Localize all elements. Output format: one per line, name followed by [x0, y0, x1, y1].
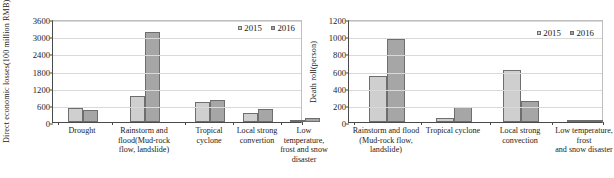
- y-axis-tick-label: 600: [37, 103, 50, 112]
- x-axis-tick-mark: [421, 122, 422, 125]
- gridline: [53, 73, 301, 74]
- x-axis-category-label-line: convection: [495, 136, 545, 146]
- bar-2016[interactable]: [454, 107, 472, 122]
- y-axis-tick-label: 1800: [33, 68, 50, 77]
- legend-item-2015[interactable]: 2015: [537, 28, 561, 38]
- bar-2016[interactable]: [83, 110, 98, 122]
- x-axis-tick-mark: [233, 122, 234, 125]
- bar-2015[interactable]: [436, 118, 454, 122]
- bar-2016[interactable]: [210, 100, 225, 122]
- y-axis-tick-mark: [346, 55, 349, 56]
- legend-item-2015[interactable]: 2015: [238, 23, 262, 33]
- gridline: [53, 38, 301, 39]
- x-axis-tick-mark: [58, 122, 59, 125]
- gridline: [349, 107, 602, 108]
- bar-2015[interactable]: [503, 70, 521, 122]
- x-axis-category-label: Tropical cyclone: [422, 126, 484, 136]
- y-axis-tick-label: 1200: [33, 85, 50, 94]
- y-axis-title-left: Direct economic losses (100 million RMB): [2, 20, 12, 123]
- legend-label-2016: 2016: [277, 23, 295, 33]
- plot-area-right: 2015 2016 020040060080010001200: [348, 20, 603, 123]
- x-axis-category-label: Rainstorm andflood(Mud-rockflow, landsli…: [113, 126, 175, 155]
- bar-2016[interactable]: [585, 120, 603, 122]
- legend-swatch-2016-icon: [271, 26, 275, 30]
- gridline: [349, 21, 602, 22]
- x-axis-tick-mark: [552, 122, 553, 125]
- y-axis-tick-label: 1200: [329, 17, 346, 26]
- bar-2016[interactable]: [145, 32, 160, 122]
- y-axis-tick-label: 2400: [33, 51, 50, 60]
- bar-2015[interactable]: [68, 108, 83, 122]
- y-axis-title-left-line2: (100 million RMB): [2, 0, 12, 65]
- y-axis-tick-mark: [50, 124, 53, 125]
- y-axis-tick-label: 3600: [33, 17, 50, 26]
- chart-panel-death-roll: Death roll(person) 2015 2016 02004006008…: [307, 0, 614, 178]
- legend-swatch-2016-icon: [570, 31, 574, 35]
- bar-2016[interactable]: [521, 101, 539, 122]
- gridline: [349, 38, 602, 39]
- y-axis-tick-label: 800: [333, 51, 346, 60]
- x-axis-category-label: Drought: [59, 126, 105, 136]
- x-axis-category-label-line: Tropical: [186, 126, 232, 136]
- y-axis-tick-mark: [346, 21, 349, 22]
- x-axis-tick-mark: [185, 122, 186, 125]
- bar-2016[interactable]: [387, 39, 405, 122]
- legend-item-2016[interactable]: 2016: [570, 28, 594, 38]
- legend-swatch-2015-icon: [537, 31, 541, 35]
- x-axis-category-label: Local strongconvection: [495, 126, 545, 145]
- y-axis-tick-label: 200: [333, 103, 346, 112]
- x-axis-category-label-line: Rainstorm and: [113, 126, 175, 136]
- gridline: [53, 55, 301, 56]
- gridline: [53, 107, 301, 108]
- y-axis-tick-mark: [346, 124, 349, 125]
- x-axis-category-label-line: flood(Mud-rock: [113, 136, 175, 146]
- y-axis-tick-label: 600: [333, 68, 346, 77]
- legend-swatch-2015-icon: [238, 26, 242, 30]
- y-axis-tick-mark: [346, 89, 349, 90]
- x-axis-tick-mark: [603, 122, 604, 125]
- x-axis-tick-mark: [112, 122, 113, 125]
- x-axis-category-label-line: Local strong: [232, 126, 282, 136]
- bar-2016[interactable]: [258, 109, 273, 122]
- x-axis-tick-mark: [354, 122, 355, 125]
- bar-2015[interactable]: [243, 113, 258, 122]
- legend-label-2016: 2016: [576, 28, 594, 38]
- y-axis-tick-mark: [346, 106, 349, 107]
- legend-item-2016[interactable]: 2016: [271, 23, 295, 33]
- bar-2015[interactable]: [195, 102, 210, 122]
- y-axis-title-right: Death roll(person): [309, 20, 319, 123]
- x-axis-tick-mark: [302, 122, 303, 125]
- gridline: [349, 73, 602, 74]
- bar-2015[interactable]: [567, 120, 585, 122]
- x-axis-category-label-line: convertion: [232, 136, 282, 146]
- gridline: [349, 90, 602, 91]
- x-axis-category-label: Rainstorm and flood(Mud-rock flow,landsl…: [352, 126, 420, 155]
- x-axis-tick-mark: [281, 122, 282, 125]
- y-axis-tick-label: 400: [333, 85, 346, 94]
- gridline: [349, 55, 602, 56]
- y-axis-tick-mark: [346, 72, 349, 73]
- x-axis-category-label-line: landslide): [352, 145, 420, 155]
- y-axis-title-left-line1: Direct economic losses: [2, 65, 12, 143]
- legend-label-2015: 2015: [244, 23, 262, 33]
- x-axis-category-label-line: Low temperature, frost: [551, 126, 614, 145]
- x-axis-tick-mark: [490, 122, 491, 125]
- x-axis-category-label-line: Tropical cyclone: [422, 126, 484, 136]
- x-axis-category-label: Tropicalcyclone: [186, 126, 232, 145]
- legend-label-2015: 2015: [543, 28, 561, 38]
- x-axis-category-label: Low temperature, frostand snow disaster: [551, 126, 614, 155]
- y-axis-tick-mark: [50, 55, 53, 56]
- chart-panel-economic-losses: Direct economic losses (100 million RMB)…: [0, 0, 307, 178]
- y-axis-tick-mark: [50, 21, 53, 22]
- x-axis-category-label: Local strongconvertion: [232, 126, 282, 145]
- bar-2015[interactable]: [130, 96, 145, 122]
- y-axis-tick-mark: [50, 106, 53, 107]
- bar-2015[interactable]: [369, 76, 387, 122]
- x-axis-category-label-line: Drought: [59, 126, 105, 136]
- gridline: [53, 21, 301, 22]
- x-axis-category-label-line: cyclone: [186, 136, 232, 146]
- y-axis-tick-mark: [346, 38, 349, 39]
- dual-bar-chart-figure: Direct economic losses (100 million RMB)…: [0, 0, 614, 178]
- y-axis-tick-label: 1000: [329, 34, 346, 43]
- legend-left: 2015 2016: [238, 23, 295, 33]
